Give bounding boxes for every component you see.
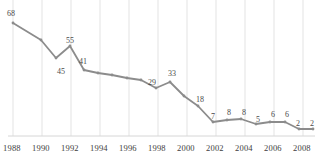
data-value-label: 2 (310, 120, 314, 128)
x-tick-label: 2008 (293, 143, 311, 153)
line-chart: 6845554129331878856622 19881990199219941… (0, 0, 317, 161)
data-point-marker (312, 128, 315, 131)
data-value-label: 8 (227, 109, 231, 117)
data-point-marker (226, 119, 229, 122)
data-point-marker (12, 22, 15, 25)
x-tick-label: 2000 (177, 143, 195, 153)
data-point-marker (83, 69, 86, 72)
x-tick-label: 2004 (235, 143, 253, 153)
data-value-label: 7 (211, 113, 215, 121)
x-tick-label: 1994 (90, 143, 108, 153)
data-point-marker (126, 77, 129, 80)
data-point-marker (140, 79, 143, 82)
x-tick-label: 2002 (206, 143, 224, 153)
data-value-label: 2 (296, 120, 300, 128)
data-point-marker (55, 57, 58, 60)
data-value-label: 18 (196, 96, 204, 104)
data-series-line (13, 23, 313, 129)
plot-area: 6845554129331878856622 (0, 0, 317, 140)
data-point-marker (197, 105, 200, 108)
data-point-marker (111, 74, 114, 77)
data-point-marker (69, 45, 72, 48)
data-value-label: 45 (57, 68, 65, 76)
x-tick-label: 1998 (148, 143, 166, 153)
data-point-marker (240, 118, 243, 121)
x-tick-label: 1996 (119, 143, 137, 153)
x-tick-label: 1992 (61, 143, 79, 153)
data-point-marker (284, 121, 287, 124)
data-value-label: 6 (271, 111, 275, 119)
x-axis-tick-labels: 1988199019921994199619982000200220042006… (0, 141, 317, 161)
data-value-label: 68 (7, 10, 15, 18)
data-point-marker (298, 128, 301, 131)
x-tick-label: 1988 (3, 143, 21, 153)
data-point-marker (183, 95, 186, 98)
data-point-marker (40, 39, 43, 42)
data-value-label: 29 (148, 79, 156, 87)
data-value-label: 6 (285, 111, 289, 119)
data-point-markers (12, 22, 315, 131)
data-value-label: 41 (79, 58, 87, 66)
data-point-marker (97, 72, 100, 75)
data-point-marker (169, 81, 172, 84)
data-value-label: 5 (256, 116, 260, 124)
data-value-label: 8 (242, 109, 246, 117)
chart-canvas (0, 0, 317, 140)
data-point-marker (155, 87, 158, 90)
x-tick-label: 2006 (264, 143, 282, 153)
data-point-marker (212, 121, 215, 124)
x-tick-label: 1990 (32, 143, 50, 153)
data-value-label: 55 (66, 37, 74, 45)
data-value-label: 33 (168, 70, 176, 78)
data-point-marker (269, 121, 272, 124)
